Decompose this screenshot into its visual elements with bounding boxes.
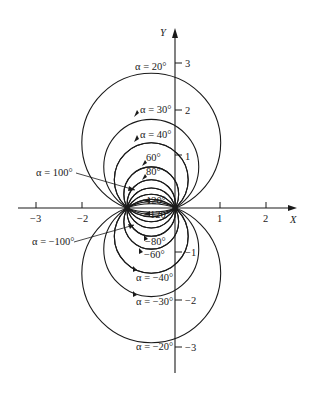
y-tick-label: −1 [185,247,196,258]
alpha-label-80: 80° [146,166,161,177]
y-tick-label: 2 [185,105,190,116]
x-tick-label: −3 [30,213,41,224]
y-axis-label: Y [160,27,167,38]
alpha-label-30: α = 30° [140,104,171,115]
alpha-label-40: α = 40° [140,129,171,140]
y-tick-label: 3 [185,58,190,69]
x-tick-label: 2 [263,213,268,224]
alpha-label-neg20: α = −20° [136,341,173,352]
alpha-label-neg60: −60° [144,249,165,260]
alpha-label-20: α = 20° [135,61,166,72]
x-axis-arrow-icon [288,205,297,211]
y-tick-label: 1 [185,151,190,162]
alpha-label-60: 60° [146,152,161,163]
focus-point [124,205,129,210]
alpha-label-neg40: α = −40° [136,272,173,283]
x-axis-label: X [289,214,297,225]
alpha-label-neg100: α = −100° [32,236,75,247]
y-tick-label: −2 [185,295,196,306]
x-tick-label: −2 [77,213,88,224]
alpha-label-100: α = 100° [36,167,73,178]
constant-angle-locus-diagram: X Y −3 −2 1 2 3 2 1 −1 −2 −3 α = 20° α =… [0,0,316,393]
alpha-label-neg80: −80° [145,236,166,247]
focus-point [172,205,177,210]
y-tick-label: −3 [185,342,196,353]
alpha-label-neg30: α = −30° [136,296,173,307]
y-axis-arrow-icon [172,28,178,38]
x-tick-label: 1 [217,213,222,224]
